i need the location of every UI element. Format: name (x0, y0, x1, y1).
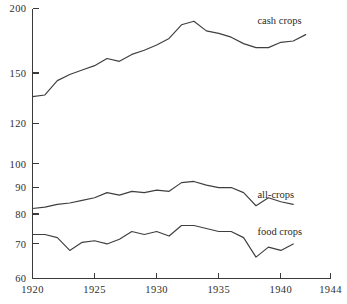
y-tick-label: 90 (15, 182, 26, 193)
chart-axes (33, 9, 331, 279)
y-tick-label: 200 (10, 3, 27, 14)
series-label-cash-crops: cash crops (257, 15, 301, 26)
y-tick-label: 80 (15, 209, 26, 220)
x-tick-label: 1920 (21, 284, 44, 295)
x-tick-label: 1930 (145, 284, 168, 295)
series-label-food-crops: food crops (257, 226, 302, 237)
x-tick-label: 1944 (319, 284, 342, 295)
y-tick-label: 60 (15, 273, 26, 284)
line-chart: 20015012010090807060 1920192519301935194… (0, 0, 347, 304)
x-tick-label: 1935 (207, 284, 230, 295)
x-tick-label: 1940 (270, 284, 293, 295)
y-tick-label: 150 (10, 68, 27, 79)
chart-page: 20015012010090807060 1920192519301935194… (0, 0, 347, 304)
series-label-all-crops: all-crops (257, 189, 294, 200)
x-axis-ticks: 192019251930193519401944 (21, 273, 342, 295)
y-tick-label: 100 (10, 159, 27, 170)
y-axis-ticks: 20015012010090807060 (10, 3, 39, 284)
y-tick-label: 70 (15, 239, 26, 250)
series-line-all-crops (33, 181, 294, 208)
series-lines (33, 21, 306, 257)
series-line-cash-crops (33, 21, 306, 96)
series-line-food-crops (33, 225, 294, 257)
x-tick-label: 1925 (83, 284, 106, 295)
y-tick-label: 120 (10, 118, 27, 129)
